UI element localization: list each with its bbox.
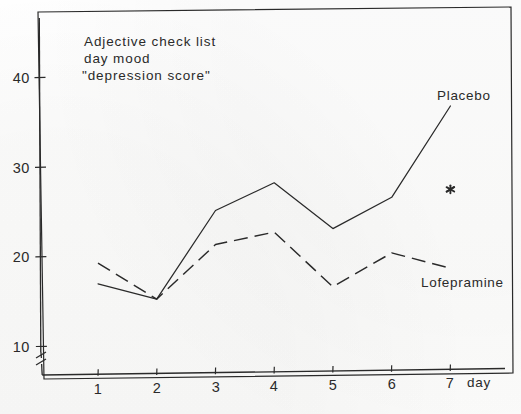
x-tick-label-2: 2 — [153, 380, 162, 396]
y-tick-label-10: 10 — [13, 339, 30, 355]
series-line-placebo — [98, 106, 450, 299]
series-line-lofepramine — [98, 232, 450, 299]
depression-score-line-chart: 40 30 20 10 1 2 3 4 5 6 7 day — [0, 0, 521, 414]
y-tick-label-30: 30 — [13, 160, 30, 176]
x-tick-label-5: 5 — [329, 377, 338, 393]
series-label-placebo: Placebo — [437, 88, 491, 103]
x-tick-label-7: 7 — [446, 375, 455, 391]
chart-title-line-1: Adjective check list — [84, 34, 216, 49]
y-tick-label-20: 20 — [13, 249, 30, 265]
chart-title-line-3: "depression score" — [82, 68, 211, 83]
x-axis-title: day — [467, 375, 491, 390]
series-label-lofepramine: Lofepramine — [421, 275, 504, 290]
chart-title-line-2: day mood — [84, 51, 151, 66]
chart-title-block: Adjective check list day mood "depressio… — [82, 34, 216, 83]
y-tick-label-40: 40 — [13, 70, 30, 86]
y-tick-labels: 40 30 20 10 — [13, 70, 30, 355]
y-axis — [39, 18, 41, 352]
x-tick-label-1: 1 — [94, 381, 103, 397]
significance-asterisk-icon — [447, 185, 455, 193]
x-tick-label-6: 6 — [388, 376, 397, 392]
x-tick-label-3: 3 — [212, 379, 221, 395]
x-tick-labels: 1 2 3 4 5 6 7 — [94, 375, 455, 397]
x-tick-label-4: 4 — [270, 378, 279, 394]
axis-break-icon — [36, 352, 46, 375]
chart-figure: 40 30 20 10 1 2 3 4 5 6 7 day — [0, 0, 521, 414]
